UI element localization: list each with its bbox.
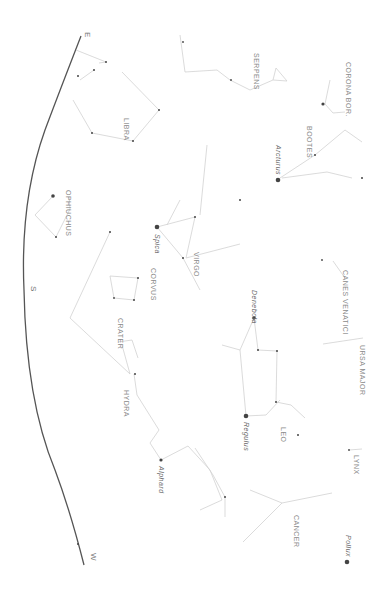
horizon-label-west: W [89,553,98,561]
stars [51,41,363,564]
star-label-denebola: Denebola [251,290,258,324]
star-label-pollux: Pollux [345,535,352,557]
star-label-arcturus: Arcturus [275,145,282,175]
star-chart [0,0,387,603]
constellation-label-lynx: LYNX [353,455,360,475]
horizon-arc [23,36,84,565]
constellation-label-cancer: CANCER [293,515,300,548]
star-label-spica: Spica [154,234,161,254]
horizon-label-south: S [29,286,38,292]
constellation-label-corona-borealis: CORONA BOR. [345,62,352,117]
constellation-label-canes-venatici: CANES VENATICI [342,270,349,335]
constellation-label-hydra: HYDRA [123,390,130,417]
constellation-label-serpens: SERPENS [253,53,260,90]
star-label-regulus: Regulus [243,422,250,451]
horizon-label-east: E [83,32,92,38]
constellation-label-virgo: VIRGO [193,252,200,277]
constellation-lines [35,35,363,542]
constellation-label-ophiuchus: OPHIUCHUS [65,190,72,237]
constellation-label-corvus: CORVUS [150,268,157,301]
constellation-label-libra: LIBRA [123,118,130,141]
constellation-label-bootes: BOOTES [306,126,313,158]
constellation-label-ursa-major: URSA MAJOR [359,345,366,396]
constellation-label-leo: LEO [280,427,287,443]
constellation-label-crater: CRATER [117,318,124,349]
star-label-alphard: Alphard [158,466,165,494]
